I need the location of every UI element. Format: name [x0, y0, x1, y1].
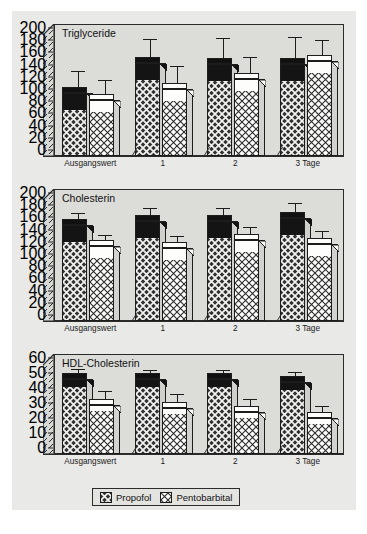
bar-top-corner — [305, 212, 311, 218]
bar-side — [332, 244, 338, 321]
chart-1: Triglyceride020406080100120140160180200A… — [12, 24, 356, 184]
x-tick-label: Ausgangswert — [64, 159, 116, 168]
bar-side — [114, 246, 120, 321]
bar-top — [207, 215, 232, 221]
bar-face — [307, 244, 332, 321]
bar-pentobarbital — [162, 408, 187, 455]
bar-top-corner — [187, 242, 193, 248]
bar-top-corner — [160, 215, 166, 221]
chart-title: HDL-Cholesterin — [62, 357, 140, 369]
bar-top-corner — [87, 87, 93, 93]
legend-swatch-pentobarbital — [160, 492, 172, 503]
bar-top — [307, 55, 332, 61]
bar-top-corner — [114, 399, 120, 405]
error-bar-cap — [216, 208, 230, 209]
error-bar-stem — [223, 38, 224, 58]
bar-propofol — [207, 221, 232, 321]
y-tick-label: 60 — [12, 349, 46, 367]
error-bar-stem — [250, 399, 251, 407]
bar-top-corner — [259, 73, 265, 79]
error-bar-cap — [71, 369, 85, 370]
bar-face — [234, 79, 259, 156]
error-bar-stem — [250, 57, 251, 72]
error-bar-cap — [315, 406, 329, 407]
y-tick-mark — [48, 150, 53, 151]
x-tick-label: Ausgangswert — [64, 457, 116, 466]
bar-pentobarbital — [162, 89, 187, 156]
bar-top-corner — [232, 215, 238, 221]
bar-top — [307, 412, 332, 418]
x-tick-label: 1 — [160, 159, 165, 168]
legend-item-propofol: Propofol — [100, 492, 151, 503]
error-bar-cap — [288, 203, 302, 204]
bar-face — [89, 405, 114, 455]
bar-pentobarbital — [234, 79, 259, 156]
x-tick-label: 2 — [233, 324, 238, 333]
chart-3: HDL-Cholesterin0102030405060Ausgangswert… — [12, 354, 356, 482]
bar-side — [187, 89, 193, 156]
error-bar-cap — [216, 370, 230, 371]
x-tick-label: 3 Tage — [296, 159, 320, 168]
bar-face — [307, 61, 332, 156]
bar-top — [89, 240, 114, 246]
bar-top — [162, 83, 187, 89]
error-bar-stem — [177, 394, 178, 402]
bar-face — [162, 248, 187, 321]
bar-top-corner — [232, 373, 238, 379]
bar-top-corner — [87, 373, 93, 379]
error-bar-cap — [143, 39, 157, 40]
legend-label-pentobarbital: Pentobarbital — [176, 492, 232, 503]
bar-top — [135, 215, 160, 221]
bar-top — [207, 58, 232, 64]
y-tick-mark — [48, 89, 53, 90]
bar-top — [280, 376, 305, 382]
bar-face — [207, 64, 232, 156]
bar-side — [187, 248, 193, 321]
y-tick-mark — [48, 217, 53, 218]
bar-face — [280, 64, 305, 156]
y-tick-mark — [48, 266, 53, 267]
bar-pentobarbital — [89, 100, 114, 156]
bar-propofol — [62, 225, 87, 321]
bar-top-corner — [305, 376, 311, 382]
bar-propofol — [135, 221, 160, 321]
y-tick-mark — [48, 373, 53, 374]
error-bar-cap — [170, 236, 184, 237]
bar-face — [135, 379, 160, 454]
y-tick-mark — [48, 229, 53, 230]
error-bar-stem — [322, 40, 323, 55]
y-tick-mark — [48, 28, 53, 29]
y-tick-mark — [48, 388, 53, 389]
legend-item-pentobarbital: Pentobarbital — [160, 492, 232, 503]
error-bar-cap — [71, 71, 85, 72]
y-tick-mark — [48, 205, 53, 206]
legend-swatch-propofol — [100, 492, 112, 503]
bar-side — [332, 61, 338, 156]
error-bar-cap — [288, 37, 302, 38]
bar-face — [135, 221, 160, 321]
y-tick-mark — [48, 101, 53, 102]
bar-side — [259, 79, 265, 156]
chart-title: Cholesterin — [62, 192, 115, 204]
bar-top — [89, 94, 114, 100]
bar-top — [234, 406, 259, 412]
bar-top-corner — [332, 412, 338, 418]
bar-top — [234, 73, 259, 79]
bar-propofol — [280, 218, 305, 321]
bar-pentobarbital — [307, 418, 332, 454]
bar-top-corner — [332, 55, 338, 61]
bar-top-corner — [332, 238, 338, 244]
x-tick-label: 2 — [233, 159, 238, 168]
bar-top — [62, 219, 87, 225]
error-bar-stem — [105, 80, 106, 93]
bar-face — [162, 408, 187, 455]
bar-face — [89, 246, 114, 321]
y-tick-mark — [48, 254, 53, 255]
y-tick-mark — [48, 125, 53, 126]
bar-top — [62, 87, 87, 93]
x-tick-label: 2 — [233, 457, 238, 466]
bar-face — [307, 418, 332, 454]
y-tick-mark — [48, 40, 53, 41]
bar-top-corner — [259, 234, 265, 240]
y-tick-mark — [48, 290, 53, 291]
